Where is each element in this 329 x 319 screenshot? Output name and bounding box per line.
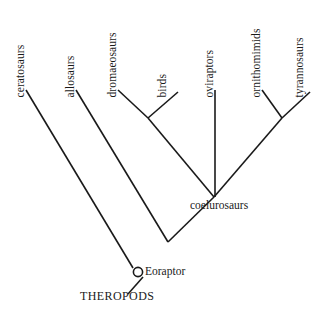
tip-label-dromaeosaurs: dromaeosaurs [107, 32, 119, 97]
root-label-theropods: THEROPODS [80, 290, 154, 302]
branch-ceratosaurs [26, 90, 133, 268]
branch-ornithomimids [262, 90, 282, 118]
branch-tyrannoraptor-to-coelurosaurs [214, 118, 282, 197]
tip-label-birds: birds [157, 74, 169, 98]
tip-label-tyrannosaurs: tyrannosaurs [294, 38, 306, 98]
branch-deinonychosaur-to-coelurosaurs [148, 118, 214, 197]
tip-label-oviraptors: oviraptors [204, 50, 216, 98]
tip-label-allosaurs: allosaurs [65, 56, 77, 98]
node-label-coelurosaurs: coelurosaurs [190, 200, 248, 212]
cladogram-figure: ceratosaurs allosaurs dromaeosaurs birds… [0, 0, 329, 319]
node-label-eoraptor: Eoraptor [145, 266, 185, 278]
eoraptor-open-circle-icon [133, 267, 142, 276]
branch-dromaeosaurs [118, 90, 148, 118]
tip-label-ornithomimids: ornithomimids [251, 28, 263, 97]
tip-label-ceratosaurs: ceratosaurs [15, 45, 27, 98]
